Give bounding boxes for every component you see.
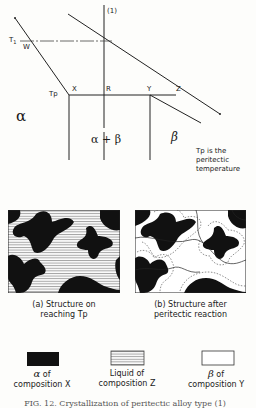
alpha-beta-region-label: α + β bbox=[91, 134, 121, 146]
legend-beta-symbol: β bbox=[208, 368, 214, 379]
legend-liquid-line-1: Liquid of bbox=[86, 369, 168, 379]
legend-alpha-line-2: composition X bbox=[2, 380, 82, 390]
legend-beta-line-1: of bbox=[216, 370, 224, 379]
legend-alpha-line-1: of bbox=[43, 370, 51, 379]
beta-region-label: β bbox=[171, 131, 178, 144]
note-line-1: Tp is the bbox=[196, 147, 240, 156]
legend-swatch-beta bbox=[202, 351, 234, 365]
caption-b-line-2: peritectic reaction bbox=[135, 310, 246, 320]
legend-liquid-line-2: composition Z bbox=[86, 379, 168, 389]
w-label: W bbox=[23, 43, 30, 52]
legend-alpha: α of composition X bbox=[2, 369, 82, 390]
x-label: X bbox=[72, 85, 77, 94]
caption-a: (a) Structure on reaching Tp bbox=[8, 300, 120, 320]
caption-a-line-2: reaching Tp bbox=[8, 310, 120, 320]
legend-alpha-symbol: α bbox=[33, 368, 40, 379]
z-label: Z bbox=[176, 85, 181, 94]
microstructure-b bbox=[135, 208, 246, 293]
alpha-region-label: α bbox=[16, 108, 26, 124]
y-label: Y bbox=[147, 85, 151, 94]
legend-liquid: Liquid of composition Z bbox=[86, 369, 168, 389]
alloy-label: (1) bbox=[107, 7, 117, 16]
legend-beta: β of composition Y bbox=[176, 369, 256, 390]
note-line-2: peritectic bbox=[196, 156, 240, 165]
tp-label: Tp bbox=[49, 90, 58, 99]
t1-label-sub: 1 bbox=[13, 39, 16, 45]
beta-solidus-line bbox=[150, 95, 201, 123]
note-line-3: temperature bbox=[196, 165, 240, 174]
caption-a-line-1: (a) Structure on bbox=[8, 300, 120, 310]
alpha-solidus-line bbox=[15, 18, 69, 95]
r-label: R bbox=[106, 85, 111, 94]
legend-beta-line-2: composition Y bbox=[176, 380, 256, 390]
t1-label: T1 bbox=[9, 36, 16, 47]
caption-b-line-1: (b) Structure after bbox=[135, 300, 246, 310]
liquidus-line bbox=[68, 14, 220, 114]
microstructure-a bbox=[8, 210, 120, 293]
figure-caption: FIG. 12. Crystallization of peritectic a… bbox=[0, 399, 250, 408]
caption-b: (b) Structure after peritectic reaction bbox=[135, 300, 246, 320]
legend-swatch-liquid bbox=[111, 351, 144, 365]
legend-swatch-alpha bbox=[27, 352, 59, 366]
peritectic-note: Tp is the peritectic temperature bbox=[196, 147, 240, 174]
